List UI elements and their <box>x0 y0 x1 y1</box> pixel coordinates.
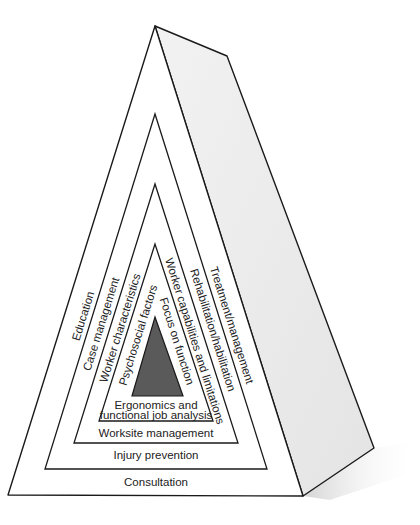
pyramid-diagram: Consultation Injury prevention Worksite … <box>0 0 420 525</box>
label-worksite-management: Worksite management <box>99 427 215 439</box>
label-consultation: Consultation <box>124 476 188 488</box>
label-injury-prevention: Injury prevention <box>113 449 198 461</box>
label-ergonomics-line2: functional job analysis <box>100 409 213 421</box>
